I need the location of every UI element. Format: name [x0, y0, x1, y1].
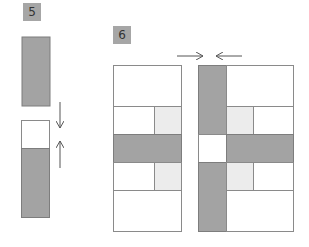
- step-5-strip-unit: [22, 121, 50, 218]
- quilt-diagram: [0, 0, 309, 247]
- step-5-dark-strip: [22, 37, 50, 106]
- step-6-right-block: [199, 66, 294, 232]
- step-6-left-block: [114, 66, 182, 232]
